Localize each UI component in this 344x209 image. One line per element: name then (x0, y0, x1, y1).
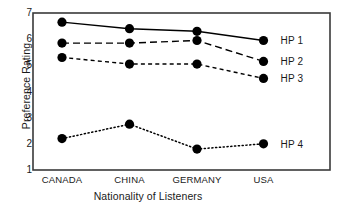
x-tick-label-canada: CANADA (42, 174, 83, 185)
data-point (57, 134, 66, 143)
data-point (259, 139, 268, 148)
data-point (125, 120, 134, 129)
x-axis-title: Nationality of Listeners (30, 190, 266, 202)
series-hp-3 (57, 53, 268, 83)
legend-label-hp-2: HP 2 (281, 56, 304, 67)
x-tick-label-china: CHINA (114, 174, 144, 185)
data-point (57, 18, 66, 27)
data-point (192, 36, 201, 45)
legend-label-hp-1: HP 1 (281, 35, 304, 46)
data-point (125, 38, 134, 47)
legend-label-hp-3: HP 3 (281, 73, 304, 84)
x-tick-label-usa: USA (254, 174, 274, 185)
data-point (259, 74, 268, 83)
data-point (57, 53, 66, 62)
series-hp-4 (57, 120, 268, 154)
series-group (57, 18, 268, 154)
legend-label-hp-4: HP 4 (281, 138, 304, 149)
preference-rating-line-chart: Preference Rating 1234567 CANADACHINAGER… (0, 0, 344, 209)
series-line (62, 57, 264, 78)
series-line (62, 124, 264, 149)
series-hp-1 (57, 18, 268, 46)
series-line (62, 40, 264, 61)
data-point (192, 27, 201, 36)
series-hp-2 (57, 36, 268, 66)
data-point (125, 59, 134, 68)
data-point (192, 144, 201, 153)
data-point (259, 36, 268, 45)
data-point (192, 59, 201, 68)
x-tick-label-germany: GERMANY (172, 174, 221, 185)
series-line (62, 22, 264, 40)
data-point (57, 38, 66, 47)
data-point (259, 57, 268, 66)
data-point (125, 24, 134, 33)
